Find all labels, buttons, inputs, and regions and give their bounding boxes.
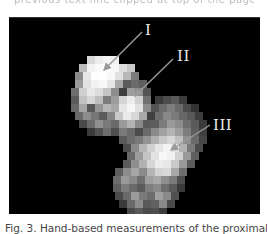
figure-image: I II III xyxy=(9,17,260,214)
clipped-header-text: previous text line clipped at top of the… xyxy=(14,0,254,8)
label-iii: III xyxy=(213,118,232,133)
arrow-iii xyxy=(171,125,210,150)
figure-caption: Fig. 3. Hand-based measurements of the p… xyxy=(5,222,267,234)
label-i: I xyxy=(145,23,151,38)
label-ii: II xyxy=(177,49,190,64)
arrow-i xyxy=(104,32,142,70)
arrow-ii xyxy=(135,59,173,96)
